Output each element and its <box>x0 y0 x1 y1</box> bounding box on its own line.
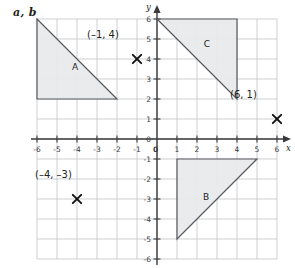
y-tick-label: 4 <box>146 55 151 64</box>
y-tick-label: 1 <box>146 115 151 124</box>
x-tick-label: 6 <box>275 145 280 154</box>
x-axis-label: x <box>286 143 291 153</box>
x-tick-label: -4 <box>73 145 81 154</box>
y-tick-label: -6 <box>144 255 152 264</box>
shape-label-c: C <box>204 39 210 49</box>
x-tick-label: -6 <box>33 145 41 154</box>
point-neg4-neg3-label: (–4, –3) <box>35 169 72 180</box>
y-tick-label: -4 <box>144 215 152 224</box>
x-tick-label: 2 <box>195 145 200 154</box>
coordinate-plane-figure: -6-5-4-3-2-1123456-6-5-4-3-2-101234560 x… <box>0 0 295 268</box>
y-tick-label: 2 <box>146 95 151 104</box>
y-axis-arrow-icon <box>153 5 160 13</box>
shape-label-a: A <box>72 62 79 72</box>
x-tick-label: 1 <box>175 145 180 154</box>
x-tick-label: 3 <box>215 145 220 154</box>
point-neg1-4-label: (–1, 4) <box>87 29 119 40</box>
y-tick-label: 3 <box>146 75 151 84</box>
x-tick-label: 4 <box>235 145 240 154</box>
x-tick-label: -1 <box>133 145 141 154</box>
y-tick-label: -5 <box>144 235 152 244</box>
shape-label-b: B <box>203 192 209 202</box>
point-6-1-label: (6, 1) <box>230 89 257 100</box>
y-tick-label: -2 <box>144 175 152 184</box>
origin-label: 0 <box>146 135 151 144</box>
y-axis-label: y <box>145 2 151 12</box>
axes <box>31 5 291 265</box>
y-tick-label: -1 <box>144 155 152 164</box>
x-tick-label: -2 <box>113 145 121 154</box>
x-tick-label: -5 <box>53 145 61 154</box>
x-tick-label: -3 <box>93 145 101 154</box>
y-tick-label: -3 <box>144 195 152 204</box>
origin-x-label: 0 <box>153 145 158 154</box>
y-tick-label: 6 <box>146 15 151 24</box>
x-axis-arrow-icon <box>283 135 291 142</box>
y-tick-label: 5 <box>146 35 151 44</box>
x-tick-label: 5 <box>255 145 260 154</box>
